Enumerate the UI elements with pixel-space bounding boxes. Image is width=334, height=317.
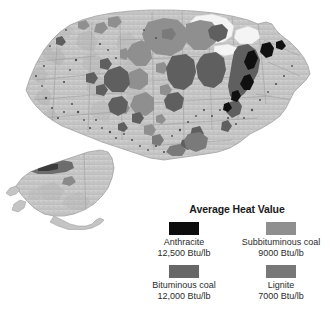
- legend-swatch-anthracite: [169, 222, 199, 235]
- legend-swatch-lignite: [266, 265, 296, 278]
- legend-label-subbituminous-coal: Subbituminous coal: [242, 237, 321, 248]
- legend-grid: Anthracite 12,500 Btu/lb Subbituminous c…: [140, 222, 334, 302]
- legend-label-anthracite: Anthracite: [164, 237, 205, 248]
- coal-deposits-figure: Average Heat Value Anthracite 12,500 Btu…: [0, 0, 334, 317]
- united-states-map: [0, 0, 334, 230]
- map-area: [0, 0, 334, 230]
- legend-title: Average Heat Value: [140, 203, 334, 216]
- legend-label-lignite: Lignite: [268, 280, 295, 291]
- legend-swatch-subbituminous-coal: [266, 222, 296, 235]
- legend-item-lignite: Lignite 7000 Btu/lb: [228, 265, 334, 302]
- legend-value-anthracite: 12,500 Btu/lb: [157, 248, 210, 259]
- legend-item-subbituminous-coal: Subbituminous coal 9000 Btu/lb: [228, 222, 334, 259]
- legend-value-bituminous-coal: 12,000 Btu/lb: [157, 291, 210, 302]
- legend-item-bituminous-coal: Bituminous coal 12,000 Btu/lb: [140, 265, 228, 302]
- legend-item-anthracite: Anthracite 12,500 Btu/lb: [140, 222, 228, 259]
- legend-value-lignite: 7000 Btu/lb: [258, 291, 304, 302]
- legend-value-subbituminous-coal: 9000 Btu/lb: [258, 248, 304, 259]
- map-legend: Average Heat Value Anthracite 12,500 Btu…: [140, 203, 334, 317]
- legend-swatch-bituminous-coal: [169, 265, 199, 278]
- legend-label-bituminous-coal: Bituminous coal: [152, 280, 216, 291]
